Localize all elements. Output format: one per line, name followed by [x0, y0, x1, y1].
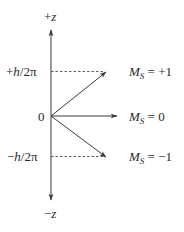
ms-symbol: M	[129, 64, 140, 79]
level-minus-rest: /2π	[21, 149, 38, 164]
level-plus-rest: /2π	[20, 64, 37, 79]
axis-label-plus-z-var: z	[51, 9, 56, 24]
ms-equals: =	[144, 64, 158, 79]
ms-symbol: M	[129, 149, 140, 164]
ms-label-0: MS = 0	[129, 110, 165, 125]
ms-value: 0	[158, 109, 165, 124]
axis-label-minus-z: −z	[44, 207, 56, 220]
vector-ms-minus1	[51, 116, 106, 157]
ms-label-plus1: MS = +1	[129, 65, 172, 80]
ms-value: −1	[158, 149, 172, 164]
level-label-plus: +h/2π	[6, 65, 37, 78]
ms-symbol: M	[129, 109, 140, 124]
ms-value: +1	[158, 64, 172, 79]
vector-ms-plus1	[51, 72, 106, 116]
ms-subscript: S	[140, 156, 145, 166]
axis-label-plus-z: +z	[44, 10, 56, 23]
level-label-minus: −h/2π	[7, 150, 38, 163]
origin-label: 0	[38, 110, 45, 123]
ms-label-minus1: MS = −1	[129, 150, 172, 165]
ms-subscript: S	[140, 116, 145, 126]
ms-subscript: S	[140, 71, 145, 81]
ms-equals: =	[144, 109, 158, 124]
ms-equals: =	[144, 149, 158, 164]
axis-label-minus-z-var: z	[51, 206, 56, 221]
